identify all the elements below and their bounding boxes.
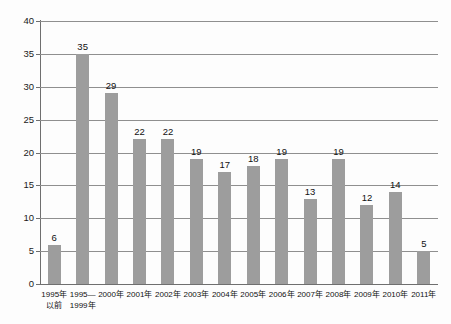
bar <box>76 54 89 284</box>
gridline-10 <box>40 218 438 219</box>
bar <box>360 205 373 284</box>
bar-value-label: 12 <box>352 193 382 203</box>
bar-value-label: 13 <box>295 187 325 197</box>
y-tick-label-25: 25 <box>8 115 34 125</box>
y-tick-mark-40 <box>36 21 40 22</box>
y-tick-label-5: 5 <box>8 246 34 256</box>
y-axis: 4035302520151050 <box>0 0 34 324</box>
bar <box>332 159 345 284</box>
bar <box>389 192 402 284</box>
bar <box>190 159 203 284</box>
bar <box>218 172 231 284</box>
bar-value-label: 22 <box>125 127 155 137</box>
bar-value-label: 29 <box>96 81 126 91</box>
bar <box>161 139 174 284</box>
bar <box>133 139 146 284</box>
gridline-5 <box>40 251 438 252</box>
bar-value-label: 35 <box>68 42 98 52</box>
gridline-0 <box>40 284 438 285</box>
bar-value-label: 19 <box>324 147 354 157</box>
bar-chart: 4035302520151050 63529222219171819131912… <box>0 0 451 324</box>
bar-value-label: 14 <box>380 180 410 190</box>
bar <box>304 199 317 284</box>
gridline-35 <box>40 54 438 55</box>
x-axis: 1995年 以前1995— 1999年2000年2001年2002年2003年2… <box>0 287 451 324</box>
bar <box>105 93 118 284</box>
bar-value-label: 6 <box>39 233 69 243</box>
bar-value-label: 19 <box>267 147 297 157</box>
y-tick-label-15: 15 <box>8 180 34 190</box>
bar <box>247 166 260 284</box>
bar-value-label: 17 <box>210 160 240 170</box>
gridline-15 <box>40 185 438 186</box>
y-tick-mark-35 <box>36 54 40 55</box>
bar-value-label: 22 <box>153 127 183 137</box>
y-tick-mark-0 <box>36 284 40 285</box>
bar-value-label: 19 <box>181 147 211 157</box>
y-tick-mark-5 <box>36 251 40 252</box>
y-tick-mark-20 <box>36 153 40 154</box>
plot-area: 63529222219171819131912145 <box>40 21 438 284</box>
bar-value-label: 5 <box>409 239 439 249</box>
bar-value-label: 18 <box>238 154 268 164</box>
y-tick-label-30: 30 <box>8 82 34 92</box>
y-tick-mark-10 <box>36 218 40 219</box>
y-tick-mark-30 <box>36 87 40 88</box>
gridline-25 <box>40 120 438 121</box>
gridline-40 <box>40 21 438 22</box>
x-tick-label: 2011年 <box>404 289 444 300</box>
bar <box>275 159 288 284</box>
y-tick-label-20: 20 <box>8 148 34 158</box>
bar <box>417 251 430 284</box>
bar <box>48 245 61 284</box>
y-tick-label-10: 10 <box>8 213 34 223</box>
y-tick-mark-25 <box>36 120 40 121</box>
y-tick-mark-15 <box>36 185 40 186</box>
y-tick-label-40: 40 <box>8 16 34 26</box>
y-tick-label-35: 35 <box>8 49 34 59</box>
